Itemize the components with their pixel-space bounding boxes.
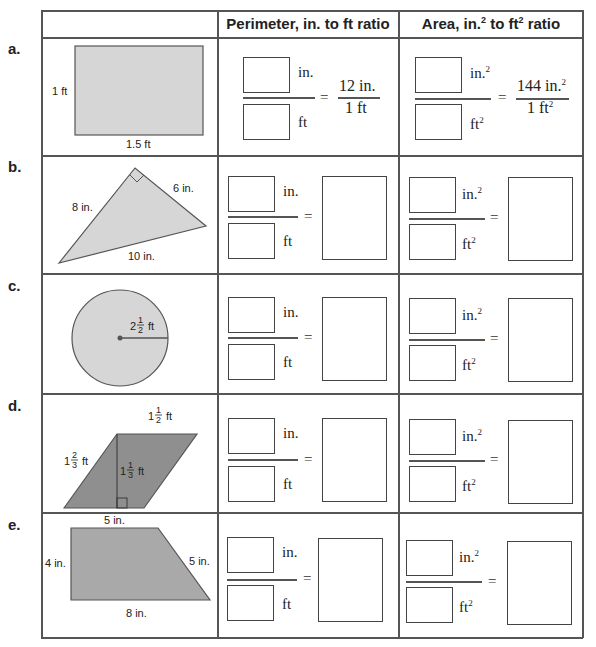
area-e-denominator-input[interactable] <box>406 587 453 623</box>
perimeter-e-frac-line <box>227 579 297 581</box>
base-num: 1 <box>156 405 161 415</box>
area-c-ft-unit: ft2 <box>462 356 476 374</box>
area-d-answer-input[interactable] <box>508 420 573 504</box>
col-divider-2 <box>398 10 400 638</box>
area-e-numerator-input[interactable] <box>406 540 453 576</box>
height-num: 1 <box>128 460 133 470</box>
height-unit: ft <box>138 465 144 477</box>
perimeter-d-denominator-input[interactable] <box>228 466 275 502</box>
rect-height-label: 1 ft <box>52 85 67 97</box>
perimeter-e-answer-input[interactable] <box>318 538 383 622</box>
col-divider-1 <box>217 10 219 638</box>
perimeter-e-numerator-input[interactable] <box>227 537 274 573</box>
radius-whole: 2 <box>130 320 136 332</box>
perimeter-a-numerator-input[interactable] <box>243 57 290 93</box>
height-whole: 1 <box>120 465 126 477</box>
trapezoid-top-label: 5 in. <box>104 514 125 526</box>
triangle-leg1-label: 8 in. <box>72 201 93 213</box>
rectangle-shape <box>75 46 203 135</box>
perimeter-c-numerator-input[interactable] <box>228 297 275 333</box>
area-a-numerator-input[interactable] <box>415 57 462 93</box>
perimeter-d-numerator-input[interactable] <box>228 418 275 454</box>
area-b-denominator-input[interactable] <box>409 224 456 260</box>
perimeter-c-frac-line <box>228 337 298 339</box>
area-c-in-unit: in.2 <box>462 306 482 324</box>
perimeter-e-denominator-input[interactable] <box>227 585 274 621</box>
perimeter-c-denominator-input[interactable] <box>228 344 275 380</box>
perimeter-b-ft-unit: ft <box>283 233 292 250</box>
area-d-numerator-input[interactable] <box>409 419 456 455</box>
area-e-frac-line <box>406 581 482 583</box>
area-c-numerator-input[interactable] <box>409 298 456 334</box>
area-a-given-num: 144 in.2 <box>517 77 566 95</box>
side-unit: ft <box>82 455 88 467</box>
side-den: 3 <box>72 460 77 470</box>
perimeter-b-numerator-input[interactable] <box>228 176 275 212</box>
header-area: Area, in.2 to ft2 ratio <box>399 10 583 37</box>
area-a-denominator-input[interactable] <box>415 104 462 140</box>
trapezoid-bottom-label: 8 in. <box>126 607 147 619</box>
area-c-denominator-input[interactable] <box>409 345 456 381</box>
perimeter-c-equals: = <box>304 329 312 346</box>
center-dot <box>118 336 123 341</box>
perimeter-c-answer-input[interactable] <box>322 297 387 381</box>
perimeter-b-denominator-input[interactable] <box>228 223 275 259</box>
area-b-in-unit: in.2 <box>462 185 482 203</box>
area-b-numerator-input[interactable] <box>409 177 456 213</box>
area-a-in-unit: in.2 <box>470 64 490 82</box>
area-b-answer-input[interactable] <box>508 177 573 261</box>
radius-num: 1 <box>138 315 143 325</box>
rect-width-label: 1.5 ft <box>126 138 150 150</box>
area-b-frac-line <box>409 218 485 220</box>
row-label-c: c. <box>8 277 21 294</box>
perimeter-c-in-unit: in. <box>283 304 298 321</box>
perimeter-a-frac-line <box>243 97 315 99</box>
table-border-right <box>582 10 584 638</box>
triangle-leg2-label: 6 in. <box>173 182 194 194</box>
area-a-equals: = <box>498 89 506 106</box>
area-e-ft-unit: ft2 <box>459 598 473 616</box>
header-perimeter: Perimeter, in. to ft ratio <box>218 10 398 37</box>
area-c-frac-line <box>409 339 485 341</box>
side-num: 2 <box>72 450 77 460</box>
perimeter-b-equals: = <box>304 208 312 225</box>
area-e-answer-input[interactable] <box>507 541 572 625</box>
triangle-hyp-label: 10 in. <box>128 250 155 262</box>
perimeter-e-in-unit: in. <box>282 544 297 561</box>
area-d-ft-unit: ft2 <box>462 477 476 495</box>
area-a-frac-line <box>415 98 491 100</box>
area-a-given-den: 1 ft2 <box>527 99 553 117</box>
table-border-bottom <box>41 637 583 639</box>
area-e-in-unit: in.2 <box>459 548 479 566</box>
perimeter-d-equals: = <box>304 451 312 468</box>
perimeter-e-equals: = <box>303 570 311 587</box>
triangle-figure: 8 in. 6 in. 10 in. <box>42 156 217 273</box>
perimeter-a-ft-unit: ft <box>298 114 307 131</box>
perimeter-b-in-unit: in. <box>283 183 298 200</box>
trapezoid-slant-label: 5 in. <box>189 555 210 567</box>
radius-unit: ft <box>148 320 154 332</box>
header-perimeter-text: Perimeter, in. to ft ratio <box>226 15 389 32</box>
perimeter-a-denominator-input[interactable] <box>243 104 290 140</box>
area-a-ft-unit: ft2 <box>470 115 484 133</box>
circle-figure: 2 1 2 ft <box>42 274 217 393</box>
perimeter-a-given-num: 12 in. <box>339 77 375 95</box>
parallelogram-figure: 1 1 2 ft 1 2 3 ft 1 1 3 ft <box>42 394 217 512</box>
perimeter-d-in-unit: in. <box>283 425 298 442</box>
perimeter-d-frac-line <box>228 459 298 461</box>
perimeter-c-ft-unit: ft <box>283 354 292 371</box>
radius-den: 2 <box>138 325 143 335</box>
row-label-d: d. <box>8 397 21 414</box>
perimeter-d-answer-input[interactable] <box>322 418 387 502</box>
perimeter-e-ft-unit: ft <box>282 596 291 613</box>
area-d-in-unit: in.2 <box>462 427 482 445</box>
perimeter-b-frac-line <box>228 216 298 218</box>
area-c-answer-input[interactable] <box>508 298 573 382</box>
area-b-ft-unit: ft2 <box>462 235 476 253</box>
row-label-b: b. <box>8 158 21 175</box>
area-d-denominator-input[interactable] <box>409 466 456 502</box>
area-c-equals: = <box>490 330 498 347</box>
perimeter-b-answer-input[interactable] <box>322 176 387 260</box>
base-whole: 1 <box>148 410 154 422</box>
area-e-equals: = <box>488 573 496 590</box>
